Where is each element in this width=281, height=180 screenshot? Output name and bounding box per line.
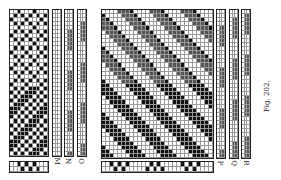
label-n: N [64, 158, 72, 164]
left-weave-draft [9, 9, 49, 157]
draft-cell [209, 154, 213, 158]
draft-cell [44, 167, 48, 172]
left-tieup-row [9, 161, 49, 173]
strip-q [229, 9, 239, 159]
strip-m [52, 9, 62, 157]
strip-p [216, 9, 226, 159]
strip-n [64, 9, 74, 157]
draft-cell [44, 152, 48, 156]
draft-cell [70, 152, 73, 156]
right-weave-draft [101, 9, 214, 159]
figure-caption: Fig. 202. [263, 80, 271, 112]
draft-cell [222, 154, 225, 158]
draft-cell [209, 167, 213, 172]
label-r: R [242, 160, 250, 165]
draft-cell [58, 152, 61, 156]
label-q: Q [230, 160, 238, 166]
draft-cell [83, 152, 86, 156]
label-m: M [53, 157, 61, 164]
draft-cell [247, 154, 250, 158]
label-o: O [77, 158, 85, 164]
draft-cell [235, 154, 238, 158]
strip-o [77, 9, 87, 157]
label-p: P [216, 161, 224, 166]
strip-r [241, 9, 251, 159]
right-tieup-row [101, 161, 214, 173]
